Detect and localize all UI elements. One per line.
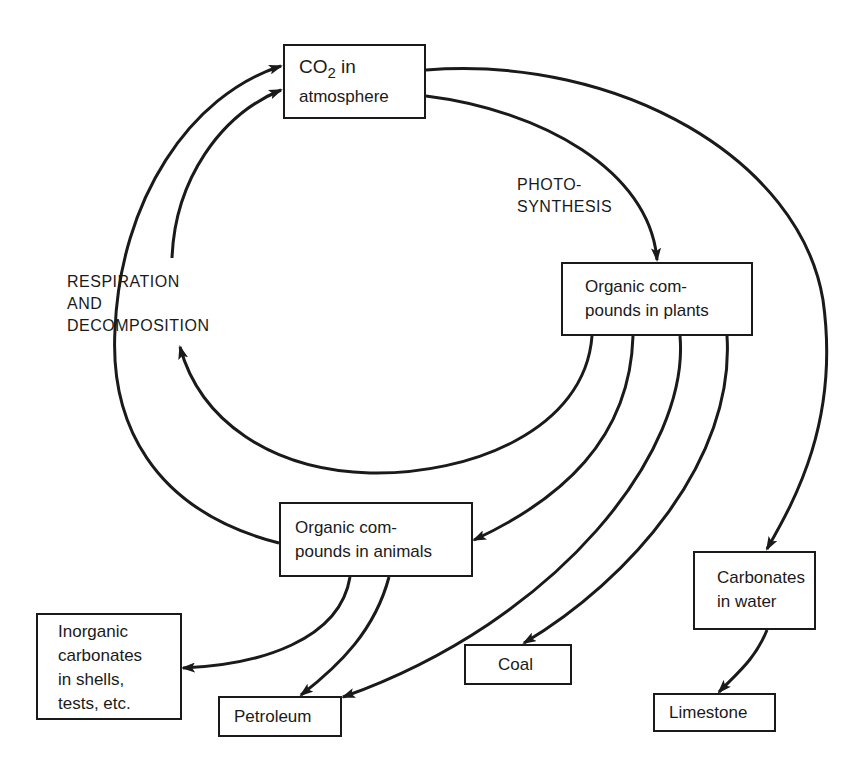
limestone-label: Limestone: [669, 702, 747, 724]
co2-text: CO: [299, 56, 328, 77]
label-photosynthesis: PHOTO- SYNTHESIS: [517, 174, 612, 218]
arrow-animals-to-inorganic: [183, 577, 350, 668]
inorganic-line2: carbonates: [58, 645, 142, 667]
node-carbonates-water: Carbonates in water: [693, 551, 816, 630]
node-inorganic-carbonates: Inorganic carbonates in shells, tests, e…: [36, 613, 182, 720]
node-limestone: Limestone: [653, 693, 776, 732]
node-organic-animals: Organic com- pounds in animals: [279, 502, 473, 577]
photosynthesis-line2: SYNTHESIS: [517, 196, 612, 218]
arrow-plants-to-animals: [474, 336, 633, 540]
arrow-respiration-to-co2: [172, 90, 281, 258]
carbonates-line1: Carbonates: [717, 567, 805, 589]
inorganic-line1: Inorganic: [58, 621, 128, 643]
plants-line1: Organic com-: [585, 276, 687, 298]
co2-in-text: in: [336, 56, 356, 77]
arrow-plants-to-respiration: [180, 336, 592, 473]
co2-line2: atmosphere: [299, 86, 389, 108]
label-respiration-decomposition: RESPIRATION AND DECOMPOSITION: [67, 271, 210, 337]
node-co2-atmosphere: CO2 in atmosphere: [283, 44, 426, 119]
petroleum-label: Petroleum: [234, 706, 311, 728]
inorganic-line4: tests, etc.: [58, 693, 131, 715]
carbonates-line2: in water: [717, 591, 777, 613]
animals-line1: Organic com-: [295, 517, 397, 539]
coal-label: Coal: [498, 654, 533, 676]
co2-subscript: 2: [328, 64, 336, 81]
plants-line2: pounds in plants: [585, 300, 709, 322]
inorganic-line3: in shells,: [58, 669, 124, 691]
node-organic-plants: Organic com- pounds in plants: [561, 262, 753, 336]
respiration-line3: DECOMPOSITION: [67, 315, 210, 337]
node-petroleum: Petroleum: [218, 696, 342, 737]
arrow-carbonates-to-limestone: [719, 630, 767, 692]
photosynthesis-line1: PHOTO-: [517, 174, 612, 196]
animals-line2: pounds in animals: [295, 541, 432, 563]
node-coal: Coal: [464, 644, 572, 685]
respiration-line2: AND: [67, 293, 210, 315]
respiration-line1: RESPIRATION: [67, 271, 210, 293]
